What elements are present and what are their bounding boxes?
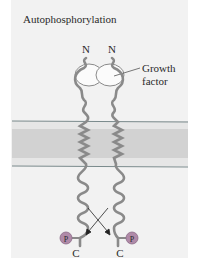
c-terminus-left-label: C <box>72 247 79 259</box>
growth-factor-label-line1: Growth <box>142 62 176 74</box>
phosphate-right: P <box>118 232 138 244</box>
phosphate-left: P <box>60 232 80 244</box>
cross-phosphorylation-arrows <box>86 208 110 235</box>
n-terminus-left-label: N <box>82 43 90 55</box>
c-terminus-right-label: C <box>116 247 123 259</box>
phosphate-right-label: P <box>130 235 135 244</box>
growth-factor-label-line2: factor <box>142 75 168 87</box>
receptor-diagram: P P N N Growth factor C C <box>0 0 198 269</box>
phosphate-left-label: P <box>64 235 69 244</box>
cell-membrane <box>12 121 188 167</box>
n-terminus-right-label: N <box>108 43 116 55</box>
